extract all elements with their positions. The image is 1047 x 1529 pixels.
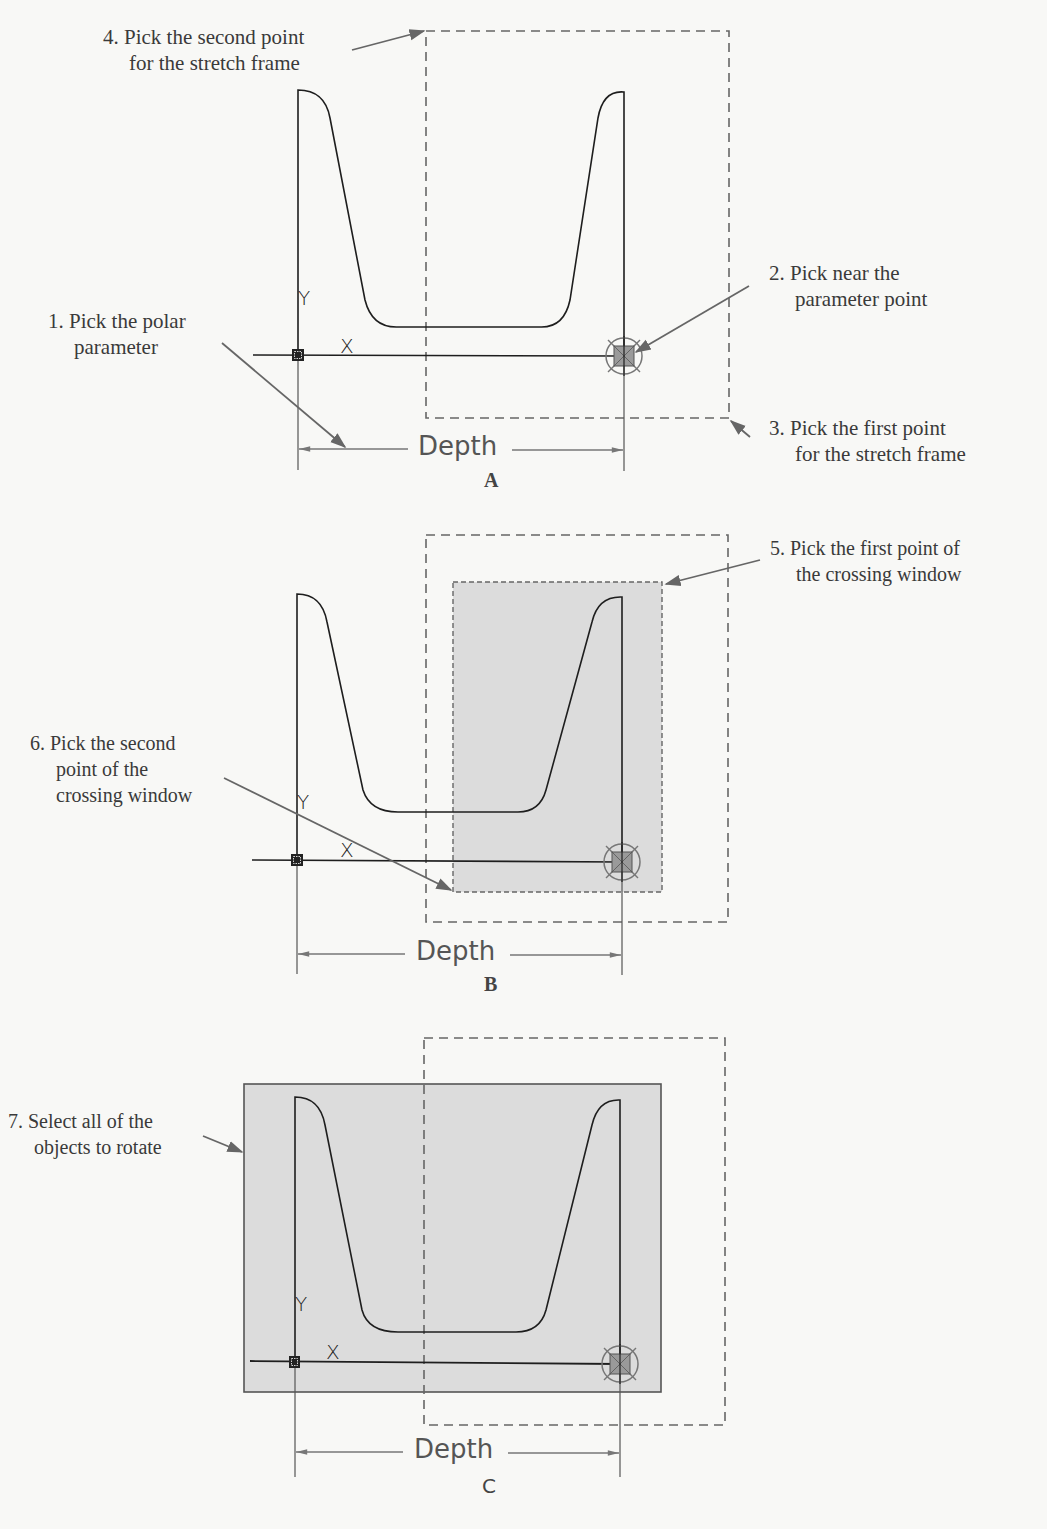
callout-6: 6. Pick the second point of the crossing… <box>30 730 192 808</box>
leader-5 <box>666 560 760 584</box>
dimension-label-depth: Depth <box>416 936 495 966</box>
callout-7: 7. Select all of the objects to rotate <box>8 1108 162 1160</box>
axis-y-label: Y <box>295 1292 307 1316</box>
panel-caption-c: C <box>482 1474 496 1498</box>
leader-4 <box>352 31 424 50</box>
panel-a <box>222 31 750 471</box>
selection-window <box>244 1084 661 1392</box>
callout-2: 2. Pick near the parameter point <box>769 260 927 312</box>
base-point-grip-icon <box>291 854 303 866</box>
axis-y-label: Y <box>298 286 310 310</box>
axis-x-label: X <box>326 1340 340 1364</box>
axis-x-label: X <box>340 838 354 862</box>
stretch-frame <box>426 31 729 418</box>
u-profile <box>298 90 624 355</box>
axis-y-label: Y <box>297 790 309 814</box>
panel-caption-a: A <box>484 469 498 492</box>
dimension-label-depth: Depth <box>414 1434 493 1464</box>
leader-6 <box>224 778 451 890</box>
callout-3: 3. Pick the first point for the stretch … <box>769 415 966 467</box>
leader-2 <box>636 286 749 352</box>
callout-1: 1. Pick the polar parameter <box>48 308 186 360</box>
dimension-label-depth: Depth <box>418 431 497 461</box>
panel-b <box>224 535 760 975</box>
leader-3 <box>731 421 750 437</box>
base-point-grip-icon <box>292 349 304 361</box>
callout-4: 4. Pick the second point for the stretch… <box>103 24 304 76</box>
stretch-rotate-diagram: 4. Pick the second point for the stretch… <box>0 0 1047 1529</box>
panel-c <box>203 1038 725 1477</box>
base-point-grip-icon <box>289 1356 300 1368</box>
panel-caption-b: B <box>484 973 497 996</box>
callout-5: 5. Pick the first point of the crossing … <box>770 535 962 587</box>
axis-x-label: X <box>340 334 354 358</box>
leader-1 <box>222 343 345 447</box>
leader-7 <box>203 1136 242 1152</box>
